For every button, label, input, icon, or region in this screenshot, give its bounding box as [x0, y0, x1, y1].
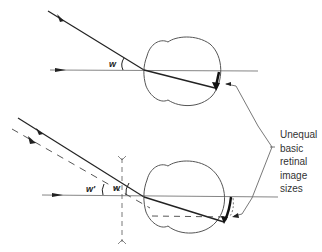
axis-arrow-icon [52, 193, 63, 197]
angle-label-w-top: w [109, 59, 117, 69]
angle-arc-w-bottom [126, 183, 129, 195]
ray-arrow-icon [57, 14, 64, 22]
ray-arrow-icon [36, 128, 43, 135]
angle-arc-w-prime [102, 184, 104, 195]
callout-line: image [280, 169, 322, 183]
callout-line: retinal [280, 155, 322, 169]
optical-axis-bottom [42, 195, 278, 197]
callout-line: sizes [280, 182, 322, 196]
dashed-image-line [152, 216, 228, 217]
angle-arc-w-top [122, 58, 124, 70]
optical-axis-top [50, 70, 258, 71]
angle-label-w-prime: w' [86, 184, 96, 194]
eye-outline-bottom [144, 161, 225, 233]
axis-arrow-icon [55, 68, 66, 72]
optics-diagram: w w' w [0, 0, 322, 252]
bottom-panel: w' w [12, 118, 278, 244]
callout-leader [225, 82, 275, 218]
callout-line: Unequal [280, 128, 322, 142]
top-panel: w [48, 11, 258, 106]
refracted-ray-bottom [144, 197, 224, 222]
ray-arrow-icon [28, 136, 36, 144]
refracted-ray-top [144, 70, 215, 88]
retinal-image-arrow-icon [221, 216, 228, 224]
eye-outline-top [144, 37, 221, 106]
callout-label: Unequal basic retinal image sizes [280, 128, 322, 196]
retinal-image-bottom [225, 197, 231, 220]
retinal-image-arrow-icon [212, 82, 220, 91]
callout-line: basic [280, 142, 322, 156]
angle-label-w-bottom: w [113, 183, 121, 193]
